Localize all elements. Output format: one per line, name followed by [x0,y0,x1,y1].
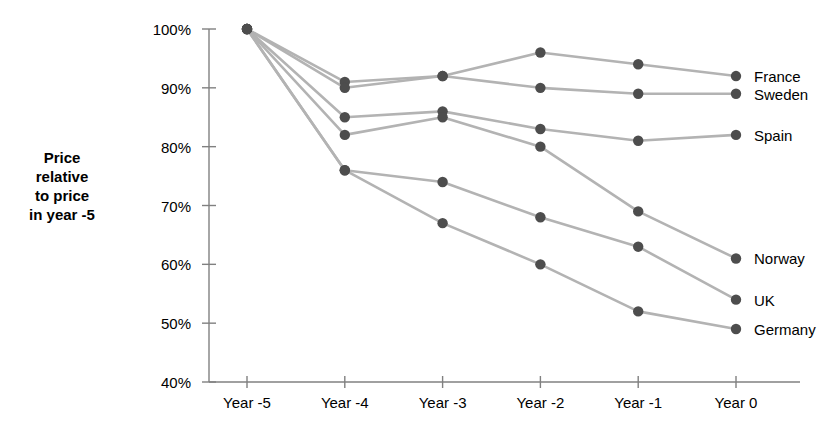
data-point-uk [633,241,643,251]
data-point-germany [437,218,447,228]
data-point-france [633,59,643,69]
data-point-uk [437,177,447,187]
y-axis-title-line-1: Price [8,148,116,167]
data-point-germany [535,259,545,269]
y-tick-label: 100% [131,22,191,37]
series-label-germany: Germany [754,322,816,337]
y-tick-label: 70% [131,199,191,214]
series-label-norway: Norway [754,251,805,266]
y-tick-label: 60% [131,257,191,272]
data-point-norway [633,206,643,216]
x-tick-label: Year -2 [490,395,590,410]
data-point-sweden [437,71,447,81]
data-point-norway [535,141,545,151]
series-line-sweden [247,29,736,94]
data-point-spain [633,136,643,146]
series-line-spain [247,29,736,141]
data-point-spain [731,130,741,140]
data-point-norway [340,130,350,140]
y-tick-label: 90% [131,81,191,96]
data-point-uk [731,294,741,304]
data-point-spain [340,112,350,122]
data-point-sweden [731,89,741,99]
plot-area [0,0,839,435]
y-tick-label: 80% [131,140,191,155]
y-axis-title: Price relative to price in year -5 [8,148,116,224]
data-point-uk [535,212,545,222]
x-tick-label: Year -1 [588,395,688,410]
data-point-germany [242,24,252,34]
data-point-sweden [340,83,350,93]
data-point-germany [731,324,741,334]
y-axis-title-line-3: to price [8,186,116,205]
data-point-france [535,47,545,57]
data-point-norway [731,253,741,263]
x-tick-label: Year 0 [686,395,786,410]
x-tick-label: Year -5 [197,395,297,410]
data-point-germany [340,165,350,175]
y-tick-label: 50% [131,316,191,331]
data-point-sweden [535,83,545,93]
data-point-germany [633,306,643,316]
series-label-france: France [754,69,801,84]
x-tick-label: Year -3 [393,395,493,410]
y-axis-title-line-4: in year -5 [8,205,116,224]
series-label-uk: UK [754,293,775,308]
series-label-sweden: Sweden [754,87,808,102]
series-label-spain: Spain [754,128,792,143]
data-point-sweden [633,89,643,99]
data-point-spain [535,124,545,134]
line-chart: Price relative to price in year -5 40%50… [0,0,839,435]
data-point-france [731,71,741,81]
x-tick-label: Year -4 [295,395,395,410]
data-point-norway [437,112,447,122]
y-axis-title-line-2: relative [8,167,116,186]
y-tick-label: 40% [131,375,191,390]
